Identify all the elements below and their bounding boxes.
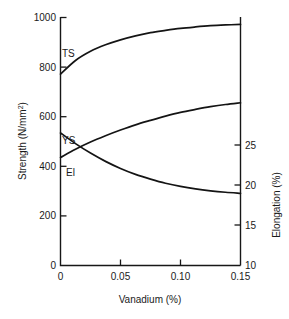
xtick-label-015: 0.15 [231, 271, 251, 282]
curve-ys [61, 103, 241, 158]
ytick-label-0: 0 [50, 260, 56, 271]
x-axis-ticks [121, 260, 181, 266]
series-layer [61, 24, 241, 193]
x-axis-title: Vanadium (%) [119, 294, 182, 305]
ytick-label-200: 200 [39, 210, 56, 221]
right-axis-ticklabels: 25 20 15 10 [245, 140, 257, 271]
curve-ts [61, 24, 241, 74]
xtick-label-010: 0.10 [171, 271, 191, 282]
right-axis-ticks [235, 145, 241, 225]
x-axis-ticklabels: 0 0.05 0.10 0.15 [58, 271, 251, 282]
xtick-label-0: 0 [58, 271, 64, 282]
series-label-el: El [66, 167, 75, 178]
left-axis-ticklabels: 1000 800 600 400 200 0 [34, 12, 57, 271]
series-label-ys: YS [62, 135, 76, 146]
chart-container: 1000 800 600 400 200 0 25 20 15 10 0 [0, 0, 289, 319]
ytick-label-800: 800 [39, 62, 56, 73]
left-axis-title: Strength (N/mm2) [17, 102, 28, 180]
chart-plot-area: 1000 800 600 400 200 0 25 20 15 10 0 [0, 0, 289, 319]
y2tick-label-15: 15 [245, 220, 257, 231]
axis-frame-left-bottom [61, 17, 241, 266]
right-axis-title: Elongation (%) [271, 172, 282, 238]
y2tick-label-25: 25 [245, 140, 257, 151]
xtick-label-005: 0.05 [111, 271, 131, 282]
right-axis-title-group: Elongation (%) [271, 172, 282, 238]
y2tick-label-20: 20 [245, 180, 257, 191]
series-label-ts: TS [62, 48, 75, 59]
curve-el [61, 133, 241, 193]
ytick-label-400: 400 [39, 161, 56, 172]
left-axis-title-group: Strength (N/mm2) [17, 102, 28, 180]
ytick-label-600: 600 [39, 111, 56, 122]
ytick-label-1000: 1000 [34, 12, 57, 23]
y2tick-label-10: 10 [245, 260, 257, 271]
